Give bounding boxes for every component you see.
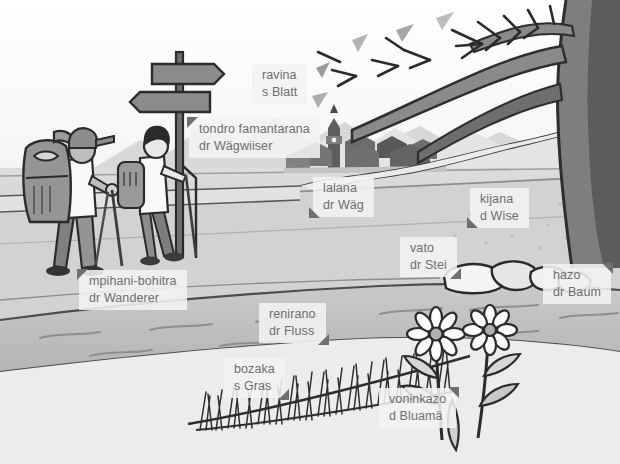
label-voninkazo[interactable]: voninkazo d Bluamä (379, 388, 456, 428)
pointer-triangle-icon (318, 334, 329, 345)
pointer-triangle-icon (77, 269, 88, 280)
label-ravina-line2: s Blatt (262, 84, 297, 101)
pointer-triangle-icon (602, 263, 613, 274)
pointer-triangle-icon (467, 217, 478, 228)
label-signpost-line2: dr Wägwiiser (199, 138, 310, 155)
pointer-triangle-icon (448, 387, 459, 398)
pointer-triangle-icon (450, 268, 461, 279)
label-signpost-line1: tondro famantarana (199, 121, 310, 138)
label-river-line2: dr Fluss (269, 323, 316, 340)
pointer-triangle-icon (187, 117, 198, 128)
label-hiker-line1: mpihani-bohitra (89, 273, 177, 290)
label-stone-line2: dr Stei (410, 257, 447, 274)
label-river-line1: renirano (269, 306, 316, 323)
label-grass-line2: s Gras (234, 378, 275, 395)
label-meadow-line1: kijana (480, 191, 519, 208)
pointer-triangle-icon (309, 207, 320, 218)
illustration-scene: ravina s Blatt tondro famantarana dr Wäg… (0, 0, 620, 464)
label-road-line2: dr Wäg (323, 197, 364, 214)
label-ravina[interactable]: ravina s Blatt (252, 64, 307, 104)
pointer-triangle-icon (278, 389, 289, 400)
label-lalana[interactable]: lalana dr Wäg (313, 177, 374, 217)
label-tree-line2: dr Baum (553, 284, 601, 301)
label-tree-line1: hazo (553, 267, 601, 284)
label-renirano[interactable]: renirano dr Fluss (259, 303, 326, 343)
artwork-canvas (0, 0, 620, 464)
label-vato[interactable]: vato dr Stei (400, 237, 457, 277)
label-flower-line2: d Bluamä (389, 408, 446, 425)
label-meadow-line2: d Wise (480, 208, 519, 225)
label-hiker-line2: dr Wanderer (89, 290, 177, 307)
label-bozaka[interactable]: bozaka s Gras (224, 358, 285, 398)
label-road-line1: lalana (323, 180, 364, 197)
label-hazo[interactable]: hazo dr Baum (543, 264, 611, 304)
label-stone-line1: vato (410, 240, 447, 257)
label-flower-line1: voninkazo (389, 391, 446, 408)
label-kijana[interactable]: kijana d Wise (470, 188, 529, 228)
label-tondro-famantarana[interactable]: tondro famantarana dr Wägwiiser (189, 118, 320, 158)
label-ravina-line1: ravina (262, 67, 297, 84)
label-mpihani-bohitra[interactable]: mpihani-bohitra dr Wanderer (79, 270, 187, 310)
label-grass-line1: bozaka (234, 361, 275, 378)
